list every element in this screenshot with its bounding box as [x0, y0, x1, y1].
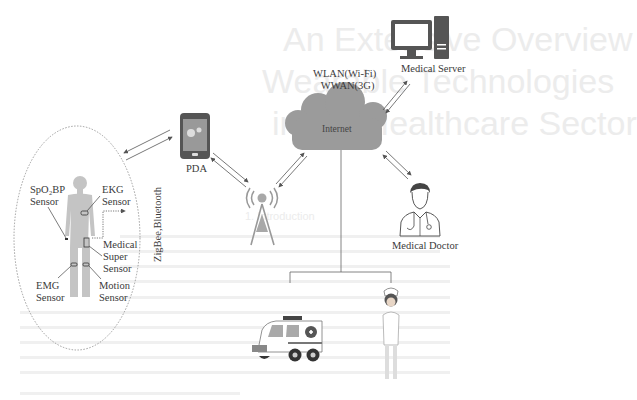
motion-sensor-label: Motion Sensor — [99, 280, 130, 304]
medical-doctor-label: Medical Doctor — [392, 240, 458, 252]
spo2-sensor-marker — [65, 238, 68, 240]
spo2-bp-sensor-line2: Sensor — [30, 196, 65, 208]
super-sensor-line3: Sensor — [103, 263, 137, 275]
wwan-label: WWAN(3G) — [313, 80, 376, 92]
pda-label: PDA — [186, 163, 207, 175]
emg-sensor-line2: Sensor — [36, 292, 65, 304]
motion-sensor-line2: Sensor — [99, 292, 130, 304]
spo2-bp-sensor-label: SpO₂BP Sensor — [30, 184, 65, 208]
motion-sensor-line1: Motion — [99, 280, 130, 292]
nurse-icon — [383, 288, 399, 379]
super-sensor-link — [92, 211, 125, 238]
medical-doctor-icon — [400, 183, 440, 236]
ekg-sensor-line1: EKG — [102, 184, 131, 196]
network-type-label: WLAN(Wi-Fi) WWAN(3G) — [313, 68, 376, 92]
zigbee-bluetooth-label: ZigBee,Bluetooth — [152, 187, 164, 262]
pda-icon — [180, 113, 210, 159]
ambulance-icon — [252, 316, 322, 362]
super-sensor-line1: Medical — [103, 239, 137, 251]
ekg-sensor-line2: Sensor — [102, 196, 131, 208]
medical-super-sensor-label: Medical Super Sensor — [103, 239, 137, 275]
dispatch-connector — [290, 150, 391, 283]
super-sensor-line2: Super — [103, 251, 137, 263]
internet-label: Internet — [322, 123, 352, 135]
spo2-bp-sensor-line1: SpO₂BP — [30, 184, 65, 196]
wlan-label: WLAN(Wi-Fi) — [313, 68, 376, 80]
ekg-sensor-label: EKG Sensor — [102, 184, 131, 208]
human-body-icon — [65, 176, 95, 297]
emg-sensor-label: EMG Sensor — [36, 280, 65, 304]
internet-cloud-icon — [285, 82, 387, 150]
medical-server-icon — [391, 16, 449, 59]
emg-sensor-line1: EMG — [36, 280, 65, 292]
cell-tower-icon — [247, 188, 278, 245]
medical-server-label: Medical Server — [401, 63, 465, 75]
